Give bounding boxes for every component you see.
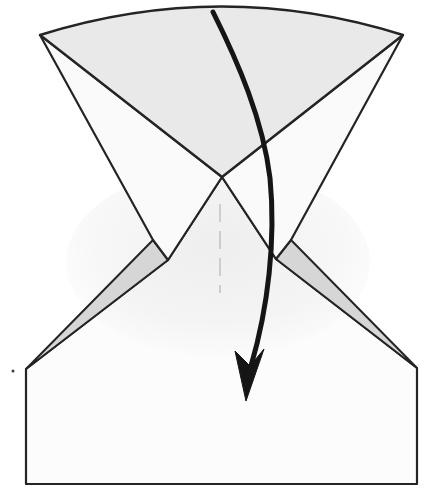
print-speck <box>12 370 15 373</box>
origami-diagram-page <box>0 0 433 497</box>
origami-fold-diagram <box>0 0 433 497</box>
paper-shading <box>66 168 370 356</box>
diagram-shapes <box>12 7 418 485</box>
